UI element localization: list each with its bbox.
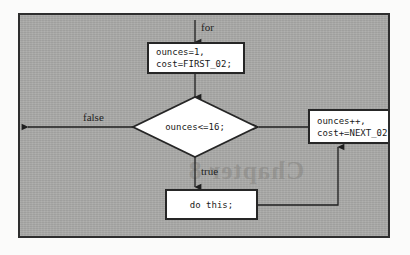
diagram-panel: Chapter 8: [18, 13, 390, 238]
node-init-line1: ounces=1,: [156, 46, 236, 58]
edge-label-true: true: [201, 165, 218, 177]
node-body: do this;: [165, 189, 258, 220]
flowchart-screenshot: Chapter 8: [0, 0, 410, 255]
node-init-line2: cost=FIRST_02;: [156, 58, 236, 70]
edge-label-entry: for: [201, 21, 214, 33]
node-update: ounces++, cost+=NEXT_02: [308, 109, 390, 144]
node-update-line2: cost+=NEXT_02: [317, 127, 383, 139]
edge-label-false: false: [83, 111, 104, 123]
node-body-label: do this;: [174, 199, 249, 211]
node-update-line1: ounces++,: [317, 115, 383, 127]
node-init: ounces=1, cost=FIRST_02;: [147, 42, 245, 74]
node-condition-label: ounces<=16;: [165, 122, 225, 132]
